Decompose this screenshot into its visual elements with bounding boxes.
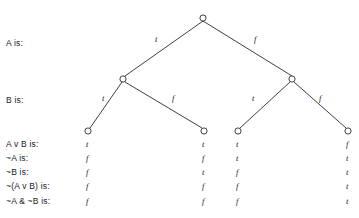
edge-root-left <box>125 21 203 76</box>
edge-label-a-false: f <box>254 35 256 44</box>
value-a-or-b-col2: t <box>202 140 204 149</box>
row-label-not-a-and-not-b: ~A & ~B is: <box>6 197 50 206</box>
value-not-a-and-not-b-col3: f <box>236 197 238 206</box>
tree-graph <box>0 0 359 218</box>
node-leaf-tf <box>201 128 207 134</box>
node-leaf-ft <box>235 128 241 134</box>
truth-tree-diagram: A is: B is: t f t f t f A v B is: t t t … <box>0 0 359 218</box>
edge-left-left <box>90 82 122 128</box>
edge-label-b-ft: t <box>252 94 254 103</box>
node-a-true <box>120 76 126 82</box>
edge-left-right <box>125 82 202 128</box>
value-not-b-col4: t <box>346 168 348 177</box>
value-not-a-and-not-b-col1: f <box>86 197 88 206</box>
edge-label-b-tf: f <box>172 94 174 103</box>
edge-label-b-ff: f <box>319 94 321 103</box>
level-label-b: B is: <box>6 96 24 105</box>
value-not-a-col1: f <box>86 154 88 163</box>
value-not-a-or-b-col2: f <box>202 182 204 191</box>
value-a-or-b-col4: f <box>346 140 348 149</box>
value-not-a-or-b-col1: f <box>86 182 88 191</box>
value-not-b-col1: f <box>86 168 88 177</box>
value-not-a-col4: t <box>346 154 348 163</box>
edge-right-left <box>240 82 290 128</box>
row-label-not-a-or-b: ~(A v B) is: <box>6 182 50 191</box>
edge-root-right <box>203 21 292 76</box>
value-not-a-and-not-b-col4: t <box>346 197 348 206</box>
value-a-or-b-col1: t <box>86 140 88 149</box>
row-label-not-b: ~B is: <box>6 168 29 177</box>
value-not-a-or-b-col4: t <box>346 182 348 191</box>
value-not-a-or-b-col3: f <box>236 182 238 191</box>
value-not-b-col2: t <box>202 168 204 177</box>
value-a-or-b-col3: t <box>236 140 238 149</box>
node-leaf-tt <box>85 128 91 134</box>
node-leaf-ff <box>345 128 351 134</box>
row-label-not-a: ~A is: <box>6 154 28 163</box>
node-root <box>200 15 206 21</box>
edge-label-a-true: t <box>155 35 157 44</box>
level-label-a: A is: <box>6 39 23 48</box>
edge-label-b-tt: t <box>102 94 104 103</box>
edge-right-right <box>294 82 346 128</box>
node-a-false <box>289 76 295 82</box>
value-not-a-and-not-b-col2: f <box>202 197 204 206</box>
value-not-a-col2: f <box>202 154 204 163</box>
value-not-a-col3: t <box>236 154 238 163</box>
row-label-a-or-b: A v B is: <box>6 140 39 149</box>
value-not-b-col3: f <box>236 168 238 177</box>
